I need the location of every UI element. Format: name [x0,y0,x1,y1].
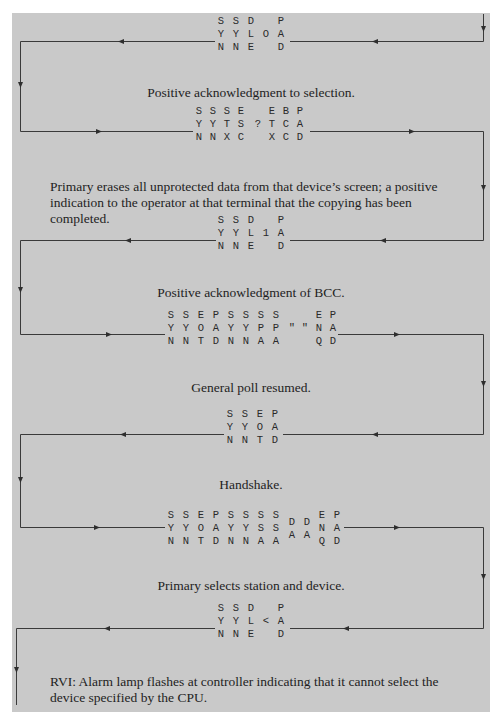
caption-rvi-alarm: RVI: Alarm lamp flashes at controller in… [50,674,460,706]
control-sequence-5: SYN SYN EOT PAD [225,408,283,447]
caption-general-poll-resumed: General poll resumed. [0,380,502,396]
caption-positive-ack-bcc: Positive acknowledgment of BCC. [0,285,502,301]
caption-handshake: Handshake. [0,477,502,493]
control-sequence-3: SYN SYN DLE 1 PAD [216,214,290,253]
caption-primary-selects: Primary selects station and device. [0,578,502,594]
control-sequence-7: SYN SYN DLE < PAD [216,602,290,641]
caption-positive-ack-selection: Positive acknowledgment to selection. [0,85,502,101]
control-sequence-6: SYN SYN EOT PAD SYN SYN SSA SSA DA DA EN… [166,509,344,548]
control-sequence-1: SYN SYN DLE O PAD [216,15,290,54]
control-sequence-4: SYN SYN EOT PAD SYN SYN SPA SPA " " ENQ … [166,309,338,348]
control-sequence-2: SYN SYN STX ESC ? ETX BCC PAD [194,105,310,144]
